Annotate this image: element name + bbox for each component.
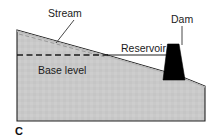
dam-label: Dam — [171, 13, 193, 25]
reservoir-base-level-diagram: Stream Dam Reservoir Base level C — [0, 0, 218, 140]
figure-container: Stream Dam Reservoir Base level C — [0, 0, 218, 140]
base-level-label: Base level — [38, 64, 86, 76]
stream-label: Stream — [48, 7, 82, 19]
reservoir-label: Reservoir — [121, 42, 166, 54]
panel-letter-label: C — [15, 125, 23, 137]
